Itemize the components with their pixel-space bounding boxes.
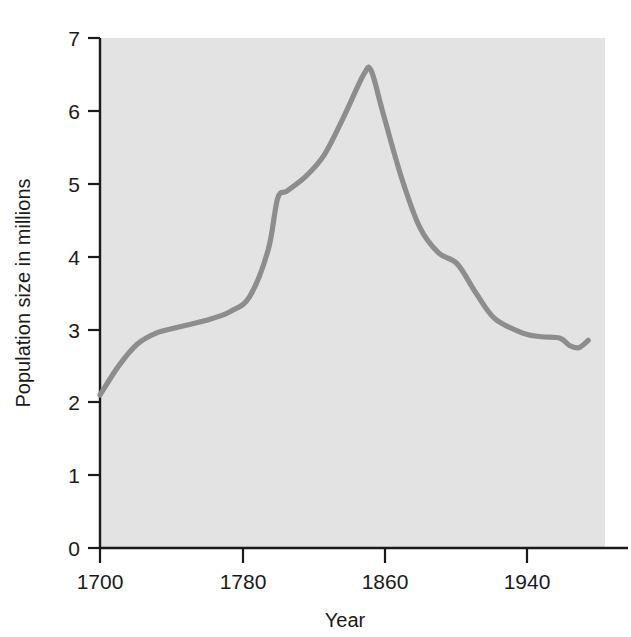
y-tick-label: 6 — [68, 100, 80, 123]
line-chart: 7 6 5 4 3 2 1 0 1700 1780 1860 1940 Year… — [0, 0, 631, 637]
y-axis-ticks — [88, 38, 100, 548]
x-axis-ticks — [100, 548, 527, 563]
y-tick-label: 4 — [68, 246, 80, 269]
y-tick-label: 1 — [68, 464, 80, 487]
x-tick-label: 1860 — [362, 570, 409, 593]
x-tick-label: 1780 — [220, 570, 267, 593]
x-axis-title: Year — [325, 609, 366, 631]
chart-figure: 7 6 5 4 3 2 1 0 1700 1780 1860 1940 Year… — [0, 0, 631, 637]
y-tick-label: 7 — [68, 27, 80, 50]
x-tick-label: 1940 — [504, 570, 551, 593]
y-tick-label: 3 — [68, 319, 80, 342]
plot-background — [100, 38, 605, 548]
y-axis-tick-labels: 7 6 5 4 3 2 1 0 — [68, 27, 80, 560]
y-axis-title: Population size in millions — [12, 178, 34, 407]
x-tick-label: 1700 — [77, 570, 124, 593]
x-axis-tick-labels: 1700 1780 1860 1940 — [77, 570, 551, 593]
y-tick-label: 2 — [68, 391, 80, 414]
y-tick-label: 5 — [68, 173, 80, 196]
y-tick-label: 0 — [68, 537, 80, 560]
